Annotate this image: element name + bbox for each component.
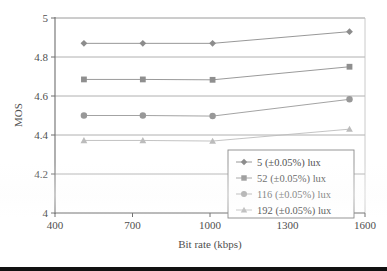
legend-circle-marker-icon-3 xyxy=(241,191,247,197)
x-tick-label-700: 700 xyxy=(124,219,141,231)
series-2-point-4 xyxy=(347,64,353,70)
y-tick-label-4: 4 xyxy=(43,207,49,219)
legend-circle-marker-icon-3-glyph xyxy=(241,191,247,197)
legend-label-4: 192 (±0.05%) lux xyxy=(257,205,332,217)
series-2-point-2-glyph xyxy=(140,77,146,83)
series-3-point-2 xyxy=(140,112,146,118)
series-3-point-1-glyph xyxy=(81,112,87,118)
chart-legend: 5 (±0.05%) lux52 (±0.05%) lux116 (±0.05%… xyxy=(228,150,354,218)
chart-svg: 44.24.44.64.85 400700100013001600 Bit ra… xyxy=(0,0,387,271)
y-tick-label-4.6: 4.6 xyxy=(34,90,48,102)
legend-label-1: 5 (±0.05%) lux xyxy=(257,157,322,169)
x-axis-title: Bit rate (kbps) xyxy=(178,238,242,251)
y-tick-label-5: 5 xyxy=(43,12,49,24)
series-2-point-1 xyxy=(81,77,87,83)
series-3-point-1 xyxy=(81,112,87,118)
legend-label-2: 52 (±0.05%) lux xyxy=(257,173,327,185)
y-axis-title: MOS xyxy=(12,103,24,127)
legend-square-marker-icon-2 xyxy=(241,175,246,180)
series-3-point-4 xyxy=(346,96,352,102)
series-2-point-3 xyxy=(210,77,216,83)
series-3-point-3 xyxy=(209,113,215,119)
x-tick-label-1300: 1300 xyxy=(277,219,300,231)
series-2-point-3-glyph xyxy=(210,77,216,83)
x-tick-label-400: 400 xyxy=(47,219,64,231)
series-2-point-2 xyxy=(140,77,146,83)
series-2-point-1-glyph xyxy=(81,77,87,83)
series-2-point-4-glyph xyxy=(347,64,353,70)
y-tick-label-4.4: 4.4 xyxy=(34,129,48,141)
x-tick-label-1600: 1600 xyxy=(354,219,377,231)
footer-bar xyxy=(0,267,387,271)
series-3-point-3-glyph xyxy=(209,113,215,119)
legend-label-3: 116 (±0.05%) lux xyxy=(257,189,332,201)
y-tick-label-4.2: 4.2 xyxy=(34,168,48,180)
legend-square-marker-icon-2-glyph xyxy=(241,175,246,180)
chart-figure: 44.24.44.64.85 400700100013001600 Bit ra… xyxy=(0,0,387,271)
series-3-point-2-glyph xyxy=(140,112,146,118)
series-3-point-4-glyph xyxy=(346,96,352,102)
x-tick-label-1000: 1000 xyxy=(199,219,222,231)
y-tick-label-4.8: 4.8 xyxy=(34,51,48,63)
